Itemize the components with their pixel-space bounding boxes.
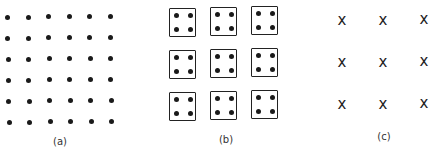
box-dot: [188, 27, 193, 32]
box-dot: [215, 26, 220, 31]
grid-dot: [67, 14, 72, 19]
box-dot: [174, 69, 179, 74]
grid-dot: [87, 14, 92, 19]
grid-dot: [68, 98, 73, 103]
x-mark-icon: x: [338, 13, 347, 28]
grid-box: [210, 49, 237, 78]
box-dot: [270, 53, 275, 58]
panel-c: xxxxxxxxx: [290, 0, 436, 153]
grid-dot: [46, 14, 51, 19]
grid-dot: [6, 57, 11, 62]
grid-dot: [47, 56, 52, 61]
grid-dot: [26, 78, 31, 83]
grid-dot: [67, 35, 72, 40]
box-dot: [256, 11, 261, 16]
grid-dot: [26, 36, 31, 41]
x-mark-icon: x: [379, 12, 388, 27]
box-dot: [174, 111, 179, 116]
box-dot: [270, 67, 275, 72]
box-dot: [215, 96, 220, 101]
grid-dot: [89, 119, 94, 124]
grid-dot: [88, 77, 93, 82]
panel-c-label: (c): [377, 131, 390, 142]
grid-dot: [6, 78, 11, 83]
grid-box: [210, 7, 237, 36]
box-dot: [215, 110, 220, 115]
box-dot: [229, 26, 234, 31]
grid-dot: [67, 56, 72, 61]
grid-dot: [68, 119, 73, 124]
box-dot: [174, 27, 179, 32]
box-dot: [270, 25, 275, 30]
panel-b: [140, 0, 290, 153]
box-dot: [256, 67, 261, 72]
grid-dot: [87, 35, 92, 40]
grid-dot: [7, 120, 12, 125]
box-dot: [188, 97, 193, 102]
x-mark-icon: x: [420, 96, 429, 111]
grid-dot: [27, 120, 32, 125]
box-dot: [256, 109, 261, 114]
panel-b-label: (b): [219, 134, 233, 145]
x-mark-icon: x: [379, 54, 388, 69]
box-dot: [229, 54, 234, 59]
grid-dot: [6, 99, 11, 104]
box-dot: [174, 97, 179, 102]
box-dot: [188, 55, 193, 60]
box-dot: [215, 12, 220, 17]
grid-dot: [26, 57, 31, 62]
grid-box: [210, 91, 237, 120]
box-dot: [256, 53, 261, 58]
grid-dot: [108, 14, 113, 19]
box-dot: [188, 111, 193, 116]
grid-box: [169, 8, 196, 37]
grid-dot: [26, 15, 31, 20]
box-dot: [270, 11, 275, 16]
box-dot: [229, 12, 234, 17]
box-dot: [215, 54, 220, 59]
box-dot: [229, 110, 234, 115]
grid-dot: [5, 36, 10, 41]
grid-dot: [88, 56, 93, 61]
grid-dot: [108, 56, 113, 61]
box-dot: [256, 25, 261, 30]
x-mark-icon: x: [379, 96, 388, 111]
grid-dot: [67, 77, 72, 82]
grid-dot: [88, 98, 93, 103]
grid-dot: [5, 15, 10, 20]
box-dot: [256, 95, 261, 100]
grid-dot: [27, 99, 32, 104]
box-dot: [229, 68, 234, 73]
grid-box: [169, 92, 196, 121]
grid-dot: [47, 77, 52, 82]
box-dot: [215, 68, 220, 73]
grid-dot: [108, 77, 113, 82]
grid-box: [251, 6, 278, 35]
grid-box: [251, 48, 278, 77]
x-mark-icon: x: [420, 54, 429, 69]
box-dot: [270, 109, 275, 114]
box-dot: [188, 13, 193, 18]
x-mark-icon: x: [420, 12, 429, 27]
grid-dot: [48, 119, 53, 124]
grid-dot: [109, 98, 114, 103]
box-dot: [174, 55, 179, 60]
grid-box: [251, 90, 278, 119]
grid-dot: [47, 98, 52, 103]
x-mark-icon: x: [338, 55, 347, 70]
panel-a: [0, 0, 140, 153]
x-mark-icon: x: [338, 97, 347, 112]
panel-a-label: (a): [53, 136, 67, 147]
box-dot: [270, 95, 275, 100]
grid-box: [169, 50, 196, 79]
box-dot: [229, 96, 234, 101]
grid-dot: [46, 35, 51, 40]
grid-dot: [108, 35, 113, 40]
grid-dot: [109, 119, 114, 124]
box-dot: [188, 69, 193, 74]
box-dot: [174, 13, 179, 18]
